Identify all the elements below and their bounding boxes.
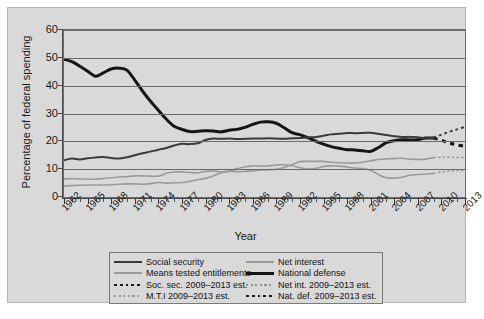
series-line-net-interest bbox=[64, 165, 434, 186]
y-tick-label-20: 20 bbox=[30, 135, 58, 146]
legend-label: Net interest bbox=[278, 257, 324, 267]
legend-label: Net int. 2009–2013 est. bbox=[278, 280, 371, 290]
legend-mti-est[interactable]: M.T.I 2009–2013 est. bbox=[114, 291, 246, 301]
legend-row: M.T.I 2009–2013 est.Nat. def. 2009–2013 … bbox=[114, 291, 378, 303]
legend-row: Soc. sec. 2009–2013 est.Net int. 2009–20… bbox=[114, 279, 378, 291]
y-tick-label-40: 40 bbox=[30, 80, 58, 91]
y-tick-label-50: 50 bbox=[30, 52, 58, 63]
legend-row: Social securityNet interest bbox=[114, 256, 378, 268]
legend-label: M.T.I 2009–2013 est. bbox=[146, 291, 230, 301]
y-tick-label-10: 10 bbox=[30, 163, 58, 174]
chart-legend: Social securityNet interestMeans tested … bbox=[109, 252, 383, 304]
page-text-sliver bbox=[0, 0, 475, 6]
y-tick-label-60: 60 bbox=[30, 24, 58, 35]
y-tick-label-0: 0 bbox=[30, 191, 58, 202]
legend-net-interest[interactable]: Net interest bbox=[246, 257, 378, 267]
gridline-y-40 bbox=[64, 86, 465, 87]
legend-national-defense[interactable]: National defense bbox=[246, 268, 378, 278]
x-axis-title: Year bbox=[8, 230, 483, 242]
legend-swatch-icon bbox=[114, 292, 142, 300]
y-tick-mark-10 bbox=[58, 168, 63, 169]
legend-swatch-icon bbox=[114, 258, 142, 266]
series-projection-net-interest bbox=[434, 170, 465, 173]
legend-swatch-icon bbox=[246, 269, 274, 277]
y-tick-mark-60 bbox=[58, 29, 63, 30]
legend-label: Nat. def. 2009–2013 est. bbox=[278, 291, 377, 301]
y-axis-title: Percentage of federal spending bbox=[20, 17, 32, 207]
y-tick-mark-30 bbox=[58, 113, 63, 114]
gridline-y-30 bbox=[64, 114, 465, 115]
gridline-y-50 bbox=[64, 58, 465, 59]
legend-label: Soc. sec. 2009–2013 est. bbox=[146, 280, 248, 290]
legend-swatch-icon bbox=[114, 281, 142, 289]
legend-net-int-est[interactable]: Net int. 2009–2013 est. bbox=[246, 280, 378, 290]
y-tick-mark-20 bbox=[58, 140, 63, 141]
legend-swatch-icon bbox=[246, 281, 274, 289]
legend-means-tested[interactable]: Means tested entitlements bbox=[114, 268, 246, 278]
gridline-y-10 bbox=[64, 169, 465, 170]
legend-label: National defense bbox=[278, 268, 346, 278]
y-tick-label-30: 30 bbox=[30, 108, 58, 119]
chart-panel: 0102030405060 Percentage of federal spen… bbox=[7, 7, 466, 303]
legend-nat-def-est[interactable]: Nat. def. 2009–2013 est. bbox=[246, 291, 378, 301]
legend-swatch-icon bbox=[246, 292, 274, 300]
legend-swatch-icon bbox=[246, 258, 274, 266]
y-tick-mark-40 bbox=[58, 85, 63, 86]
legend-label: Means tested entitlements bbox=[146, 268, 251, 278]
series-projection-social-security bbox=[434, 127, 465, 138]
plot-area bbox=[63, 29, 466, 198]
legend-label: Social security bbox=[146, 257, 204, 267]
legend-row: Means tested entitlementsNational defens… bbox=[114, 268, 378, 280]
y-tick-mark-0 bbox=[58, 196, 63, 197]
legend-swatch-icon bbox=[114, 269, 142, 277]
gridline-y-20 bbox=[64, 141, 465, 142]
legend-soc-sec-est[interactable]: Soc. sec. 2009–2013 est. bbox=[114, 280, 246, 290]
legend-social-security[interactable]: Social security bbox=[114, 257, 246, 267]
gridline-y-60 bbox=[64, 30, 465, 31]
y-tick-mark-50 bbox=[58, 57, 63, 58]
plot-inner bbox=[64, 30, 465, 197]
